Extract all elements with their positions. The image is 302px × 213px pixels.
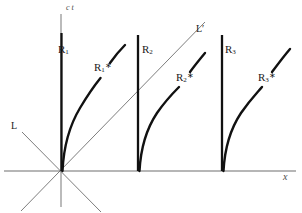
curve-R2-star-asterisk: ∗ [187, 71, 194, 80]
light-line-L-label: L [11, 121, 17, 131]
curve-R3-star [224, 87, 263, 171]
worldline-R2-subscript: 2 [149, 48, 153, 56]
curve-R1-star [63, 78, 101, 171]
curve-R2-star [140, 87, 180, 171]
spacetime-diagram-figure: c t x L L′ R1 R2 R3 R1∗ R2∗ R3∗ [0, 0, 302, 213]
curve-R2-star-tail [190, 53, 205, 72]
curve-R1-star-asterisk: ∗ [105, 61, 112, 70]
worldline-R3-label: R3 [225, 44, 236, 56]
prime-glyph: ′ [202, 23, 204, 34]
curve-R3-star-tail [272, 49, 290, 72]
curve-R1-star-tail [110, 45, 125, 63]
light-line-L-prime-label: L′ [196, 24, 204, 34]
curve-R2-star-label: R2∗ [176, 72, 194, 84]
curve-R3-star-label: R3∗ [258, 72, 276, 84]
worldline-R1-label: R1 [58, 44, 69, 56]
worldline-R2-label: R2 [142, 44, 153, 56]
ct-axis-label: c t [66, 4, 74, 12]
curve-R1-star-label: R1∗ [94, 62, 112, 74]
diagram-canvas [0, 0, 302, 213]
light-line-L-prime [21, 22, 205, 211]
worldline-R3-subscript: 3 [232, 48, 236, 56]
worldline-R1-subscript: 1 [65, 48, 69, 56]
curve-R3-star-asterisk: ∗ [269, 71, 276, 80]
x-axis-label: x [283, 172, 287, 182]
